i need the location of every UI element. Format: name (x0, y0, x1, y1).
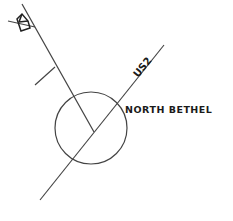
house-icon (17, 14, 30, 31)
town-circle (55, 92, 127, 164)
route-label: US2 (131, 55, 154, 79)
map-canvas: US2 NORTH BETHEL (0, 0, 233, 221)
side-road-2 (35, 67, 55, 85)
town-label: NORTH BETHEL (125, 104, 212, 115)
